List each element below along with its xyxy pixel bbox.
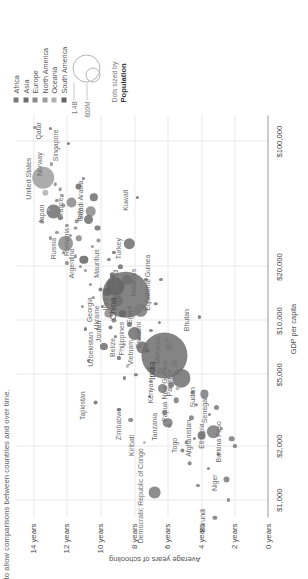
legend-item-oceania[interactable]: Oceania	[50, 6, 57, 102]
data-point[interactable]	[142, 440, 145, 443]
data-point[interactable]	[134, 373, 137, 376]
data-point[interactable]	[157, 320, 160, 323]
legend-item-label: Asia	[22, 79, 29, 93]
legend-item-asia[interactable]: Asia	[22, 6, 29, 102]
data-point[interactable]	[123, 237, 134, 248]
data-point-label: Afghanistan	[184, 419, 191, 456]
data-point[interactable]	[149, 329, 152, 332]
data-point[interactable]	[233, 444, 236, 447]
y-tick-label: 6 years	[163, 523, 172, 549]
data-point[interactable]	[90, 244, 93, 247]
data-point[interactable]	[175, 386, 179, 390]
data-point[interactable]	[41, 189, 47, 195]
data-point[interactable]	[83, 327, 86, 330]
data-point[interactable]	[148, 486, 160, 498]
data-point[interactable]	[180, 448, 184, 452]
data-point-label: Equatorial Guinea	[144, 254, 151, 310]
gridline-vertical	[16, 445, 268, 446]
data-point-label: Georgia	[85, 297, 92, 322]
data-point[interactable]	[118, 264, 123, 269]
legend-item-label: South America	[60, 46, 67, 93]
data-point[interactable]	[192, 437, 195, 440]
legend-swatch-icon	[42, 97, 47, 102]
data-point-label: France	[57, 197, 64, 219]
data-point[interactable]	[58, 187, 62, 191]
data-point[interactable]	[206, 466, 209, 469]
data-point[interactable]	[122, 376, 125, 379]
data-point[interactable]	[53, 182, 57, 186]
x-tick-label: $1,000	[274, 488, 283, 511]
data-point[interactable]	[196, 484, 199, 487]
data-point[interactable]	[163, 338, 167, 342]
data-point[interactable]	[48, 127, 51, 130]
data-point[interactable]	[100, 342, 107, 349]
data-point[interactable]	[154, 301, 158, 305]
data-point-label: Zimbabwe	[115, 407, 122, 439]
data-point[interactable]	[226, 498, 229, 501]
data-point[interactable]	[66, 141, 69, 144]
data-point[interactable]	[173, 397, 179, 403]
data-point[interactable]	[66, 197, 76, 207]
data-point[interactable]	[145, 349, 149, 353]
data-point[interactable]	[78, 265, 81, 268]
data-point[interactable]	[96, 238, 100, 242]
data-point[interactable]	[159, 278, 162, 281]
data-point[interactable]	[88, 282, 91, 285]
legend-item-label: North America	[41, 47, 48, 93]
x-axis-line	[267, 115, 268, 517]
data-point[interactable]	[107, 257, 110, 260]
legend-item-south-america[interactable]: South America	[60, 6, 67, 102]
legend-item-north-america[interactable]: North America	[41, 6, 48, 102]
legend-item-label: Oceania	[50, 66, 57, 93]
data-point[interactable]	[171, 360, 177, 366]
data-point[interactable]	[93, 400, 97, 404]
data-point-label: Mauritius	[93, 249, 100, 277]
data-point[interactable]	[187, 461, 191, 465]
data-point[interactable]	[198, 315, 201, 318]
data-point[interactable]	[223, 476, 229, 482]
data-point-label: Italy	[75, 208, 82, 221]
data-point[interactable]	[83, 269, 86, 272]
data-point[interactable]	[208, 413, 211, 416]
data-point[interactable]	[79, 255, 87, 263]
data-point[interactable]	[84, 214, 93, 223]
data-point[interactable]	[118, 310, 125, 317]
data-point-label: Russia	[49, 237, 56, 258]
data-point[interactable]	[212, 515, 216, 519]
data-point[interactable]	[46, 207, 49, 210]
data-point-label: Togo	[170, 437, 177, 452]
data-point[interactable]	[135, 195, 138, 198]
data-point[interactable]	[228, 435, 234, 441]
size-legend-circle-small	[85, 67, 100, 82]
legend-item-africa[interactable]: Africa	[12, 6, 19, 102]
data-point[interactable]	[90, 193, 97, 200]
gridline-vertical	[16, 373, 268, 374]
legend-swatch-icon	[23, 97, 28, 102]
data-point[interactable]	[117, 356, 120, 359]
data-point[interactable]	[98, 287, 102, 291]
data-point-label: Tanzania	[151, 412, 158, 440]
data-point[interactable]	[73, 226, 77, 230]
y-tick-label: 8 years	[129, 523, 138, 549]
data-point[interactable]	[128, 417, 133, 422]
data-point[interactable]	[165, 342, 173, 350]
data-point[interactable]	[213, 404, 218, 409]
data-point[interactable]	[50, 162, 53, 165]
y-axis-title: Average years of schooling	[109, 554, 200, 563]
legend-item-europe[interactable]: Europe	[31, 6, 38, 102]
data-point[interactable]	[167, 423, 171, 427]
data-point-label: Philippines	[117, 321, 124, 355]
data-point[interactable]	[75, 235, 80, 240]
size-legend-tick-small	[86, 82, 87, 100]
data-point-label: Senegal	[200, 397, 207, 423]
data-point-label: Norway	[36, 152, 43, 176]
data-point[interactable]	[80, 305, 83, 308]
data-point[interactable]	[94, 225, 100, 231]
screenshot-frame: to allow comparisons between countries a…	[0, 0, 308, 579]
data-point[interactable]	[108, 325, 112, 329]
data-point[interactable]	[102, 287, 111, 296]
chart-figure: to allow comparisons between countries a…	[0, 0, 308, 579]
data-point[interactable]	[65, 224, 68, 227]
data-point[interactable]	[188, 414, 193, 419]
data-point[interactable]	[55, 231, 58, 234]
